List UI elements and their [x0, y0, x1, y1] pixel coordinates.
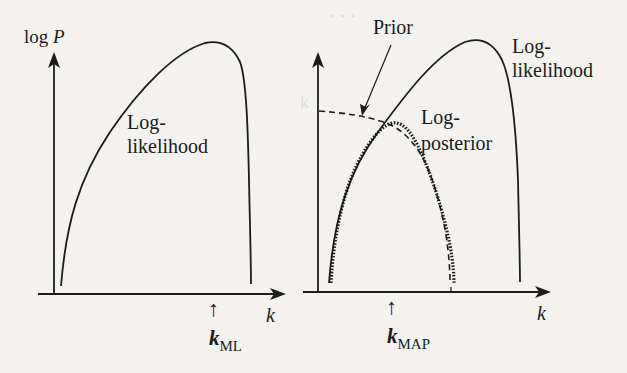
k-ml-symbol: k	[209, 326, 220, 350]
bleed-through-text: · · · k	[300, 7, 355, 112]
log-posterior-label: Log- posterior	[421, 104, 492, 156]
y-axis-label-variable: P	[53, 26, 65, 47]
svg-text:· · ·: · · ·	[330, 7, 355, 26]
label-line-1: Log-	[512, 34, 593, 58]
left-log-likelihood-curve	[61, 42, 251, 286]
left-panel	[38, 42, 286, 300]
figure-log-probability-curves: · · · k	[0, 0, 627, 373]
prior-pointer-line	[364, 45, 391, 110]
k-map-subscript: MAP	[398, 336, 431, 352]
left-y-axis-label: log P	[24, 26, 65, 47]
label-line-2: posterior	[421, 130, 492, 156]
right-log-likelihood-label: Log- likelihood	[512, 34, 593, 82]
prior-label: Prior	[373, 17, 413, 38]
right-x-axis-label: k	[537, 303, 546, 324]
k-ml-subscript: ML	[220, 338, 243, 354]
k-map-symbol: k	[387, 324, 398, 348]
k-map-marker-arrow-icon: ↑	[386, 296, 397, 317]
label-line-2: likelihood	[127, 134, 208, 158]
left-x-axis-label: k	[266, 305, 275, 326]
left-log-likelihood-label: Log- likelihood	[127, 110, 208, 158]
svg-text:k: k	[300, 93, 309, 112]
label-line-2: likelihood	[512, 58, 593, 82]
prior-pointer-arrowhead-icon	[360, 104, 370, 116]
k-ml-label: kML	[209, 328, 242, 351]
y-axis-label-prefix: log	[24, 26, 53, 47]
label-line-1: Log-	[127, 110, 208, 134]
k-ml-marker-arrow-icon: ↑	[208, 298, 219, 319]
k-map-label: kMAP	[387, 326, 430, 349]
label-line-1: Log-	[421, 104, 492, 130]
